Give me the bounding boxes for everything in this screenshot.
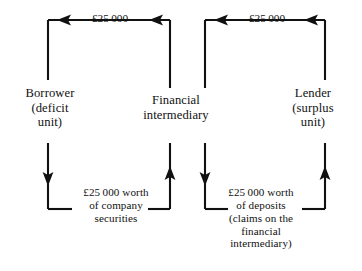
flow-label-funds-to-borrower: £25 000 [70,12,150,24]
flow-label-deposits: £25 000 worth of deposits (claims on the… [202,186,320,250]
node-label-lender: Lender (surplus unit) [266,86,360,130]
diagram-canvas: Borrower (deficit unit) Financial interm… [0,0,362,271]
node-label-borrower: Borrower (deficit unit) [2,86,98,130]
node-label-financial-intermediary: Financial intermediary [112,93,240,122]
flow-label-company-securities: £25 000 worth of company securities [62,186,170,225]
flow-label-funds-to-intermediary: £25 000 [227,12,307,24]
